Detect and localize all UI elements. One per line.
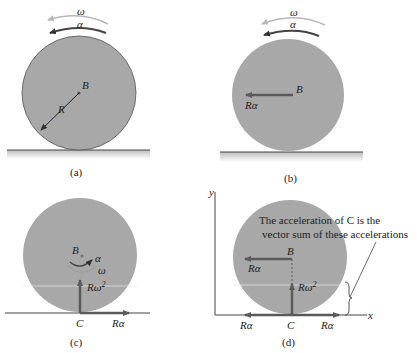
bottom-left-accel-label: Rα [239,319,253,331]
caption-c: (c) [70,336,83,349]
caption-a: (a) [70,166,83,179]
panel-a: ω α B R (a) [7,5,150,179]
alpha-label: α [290,18,296,30]
center-label-b: B [82,79,89,91]
omega-label: ω [290,6,298,18]
caption-b: (b) [284,172,297,185]
omega-label: ω [77,5,85,17]
panel-d: y x The acceleration of C is the vector … [208,186,408,349]
contact-label-c: C [287,319,295,331]
panel-c: B α ω Rω2 C Rα (c) [5,198,150,349]
tangent-accel-label: Rα [111,317,125,329]
brace-icon [345,282,352,315]
panel-b: ω α B Rα (b) [220,6,363,185]
rolling-disk-figure: ω α B R (a) ω α B Rα (b) B α ω Rω [0,0,417,353]
ground [220,152,363,162]
center-label-b: B [287,245,294,257]
ground [7,150,150,159]
axis-x-label: x [367,309,373,321]
omega-label: ω [98,264,106,276]
center-label-b: B [72,244,79,256]
bottom-right-accel-label: Rα [320,319,334,331]
accel-label: Rα [244,99,258,111]
alpha-label: α [95,252,101,264]
caption-d: (d) [282,336,295,349]
alpha-arrow-icon [264,31,319,36]
annotation-line-1: The acceleration of C is the [259,214,380,226]
contact-label-c: C [76,317,84,329]
radius-label: R [57,103,65,115]
axis-y-label: y [208,186,214,198]
annotation-line-2: vector sum of these accelerations [262,228,408,240]
leader-line [350,242,376,297]
center-label-b: B [296,83,303,95]
alpha-label: α [77,18,83,30]
center-accel-label: Rα [247,262,261,274]
